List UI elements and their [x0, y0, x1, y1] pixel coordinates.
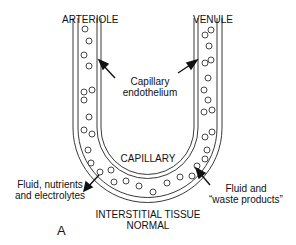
capillary-endothelium-label: Capillary endothelium: [120, 76, 180, 98]
arteriole-label: ARTERIOLE: [62, 14, 119, 25]
capillary-label: CAPILLARY: [115, 153, 181, 164]
interstitial-tissue-label: INTERSTITIAL TISSUE NORMAL: [92, 209, 204, 231]
fluid-waste-label: Fluid and “waste products”: [206, 183, 286, 205]
arrowhead: [99, 60, 108, 69]
venule-label: VENULE: [193, 14, 233, 25]
panel-letter: A: [57, 224, 66, 238]
arrowhead: [187, 60, 197, 69]
fluid-nutrients-label: Fluid, nutrients and electrolytes: [14, 179, 86, 201]
